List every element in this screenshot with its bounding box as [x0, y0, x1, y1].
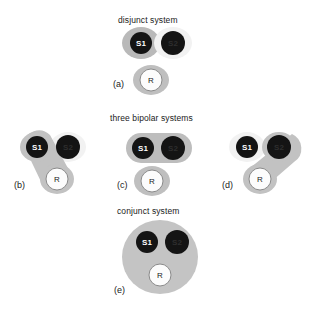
- node-s1-label: S1: [136, 39, 146, 48]
- panel-label-b: (b): [14, 180, 25, 190]
- node-s2-label: S2: [168, 144, 178, 153]
- panel-e: S1 S2 R: [120, 219, 215, 304]
- panel-label-d: (d): [222, 180, 233, 190]
- node-s2-label: S2: [274, 143, 284, 152]
- node-s1-label: S1: [242, 143, 252, 152]
- figure-canvas: disjunct system three bipolar systems co…: [0, 0, 311, 310]
- node-s2-label: S2: [63, 143, 73, 152]
- panel-b: S1 S2 R: [20, 132, 110, 202]
- panel-label-a: (a): [113, 79, 124, 89]
- node-r-label: R: [257, 175, 263, 184]
- node-r-label: R: [149, 177, 155, 186]
- node-r-label: R: [54, 175, 60, 184]
- node-s2-label: S2: [168, 39, 178, 48]
- node-s1-label: S1: [138, 144, 148, 153]
- node-r-label: R: [148, 76, 154, 85]
- node-s1-label: S1: [32, 143, 42, 152]
- panel-label-e: (e): [114, 285, 125, 295]
- heading-conjunct-system: conjunct system: [117, 206, 179, 216]
- node-r-label: R: [157, 271, 163, 280]
- panel-label-c: (c): [117, 180, 128, 190]
- node-s1-label: S1: [142, 238, 152, 247]
- panel-d: S1 S2 R: [230, 132, 311, 202]
- heading-three-bipolar-systems: three bipolar systems: [110, 113, 193, 123]
- panel-c: S1 S2 R: [125, 132, 215, 202]
- panel-a: S1 S2 R: [118, 26, 208, 101]
- node-s2-label: S2: [172, 238, 182, 247]
- heading-disjunct-system: disjunct system: [118, 15, 178, 25]
